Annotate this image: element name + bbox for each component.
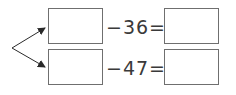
input-box-2[interactable]	[48, 49, 103, 85]
arrow-down	[12, 48, 45, 67]
input-box-1[interactable]	[48, 8, 103, 44]
result-box-2[interactable]	[164, 49, 219, 85]
operation-label-2: −47=	[106, 59, 166, 78]
result-box-1[interactable]	[164, 8, 219, 44]
arrow-up	[12, 28, 45, 48]
operation-label-1: −36=	[106, 18, 166, 37]
